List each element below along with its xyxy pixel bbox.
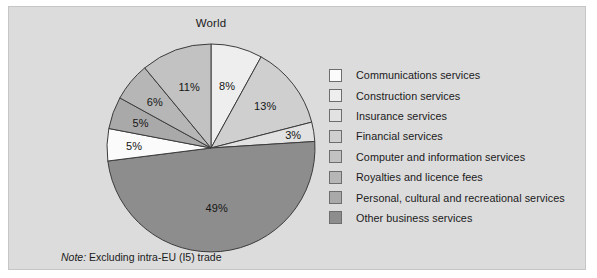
legend-color-swatch [329, 109, 342, 122]
pie-slice-value-label: 8% [219, 80, 235, 92]
legend-item: Construction services [329, 85, 579, 105]
legend-item-label: Personal, cultural and recreational serv… [356, 192, 565, 204]
legend-item-label: Computer and information services [356, 151, 525, 163]
legend-item-label: Royalties and licence fees [356, 171, 483, 183]
pie-slice-value-label: 49% [206, 202, 228, 214]
pie-slice-value-label: 3% [285, 129, 301, 141]
note-prefix: Note: [61, 251, 86, 263]
legend-item-label: Communications services [356, 69, 480, 81]
pie-chart: 8%13%3%49%5%5%6%11% [9, 7, 339, 271]
pie-slice-value-label: 11% [178, 81, 200, 93]
pie-slice-value-label: 6% [147, 96, 163, 108]
chart-note: Note: Excluding intra-EU (I5) trade [61, 251, 222, 263]
pie-slice [108, 141, 315, 251]
legend-color-swatch [329, 130, 342, 143]
legend-item: Computer and information services [329, 147, 579, 167]
legend-item: Communications services [329, 65, 579, 85]
legend-color-swatch [329, 89, 342, 102]
legend-item-label: Construction services [356, 90, 460, 102]
legend-color-swatch [329, 211, 342, 224]
chart-legend: Communications servicesConstruction serv… [329, 65, 579, 228]
note-body: Excluding intra-EU (I5) trade [86, 251, 221, 263]
legend-color-swatch [329, 191, 342, 204]
legend-item-label: Other business services [356, 212, 472, 224]
figure-container: World 8%13%3%49%5%5%6%11% Note: Excludin… [0, 0, 597, 278]
pie-slice-value-label: 13% [254, 100, 276, 112]
legend-color-swatch [329, 150, 342, 163]
legend-color-swatch [329, 69, 342, 82]
legend-item-label: Insurance services [356, 110, 447, 122]
legend-item: Personal, cultural and recreational serv… [329, 187, 579, 207]
legend-item: Other business services [329, 208, 579, 228]
pie-slice-value-label: 5% [126, 140, 142, 152]
pie-slice-value-label: 5% [132, 117, 148, 129]
legend-item-label: Financial services [356, 130, 443, 142]
legend-item: Financial services [329, 126, 579, 146]
legend-color-swatch [329, 171, 342, 184]
legend-item: Royalties and licence fees [329, 167, 579, 187]
chart-panel: World 8%13%3%49%5%5%6%11% Note: Excludin… [8, 6, 586, 270]
legend-item: Insurance services [329, 106, 579, 126]
